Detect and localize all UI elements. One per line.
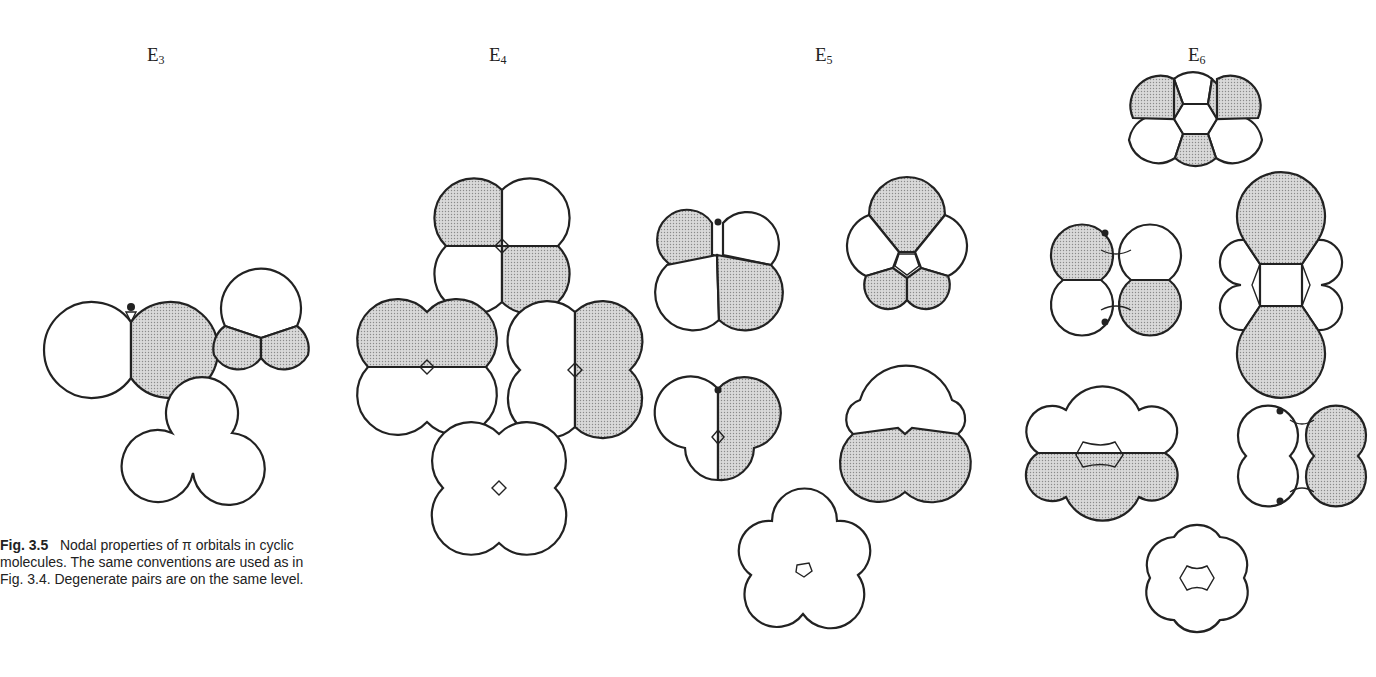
label-main: E <box>489 44 501 65</box>
e4-orbital-1 <box>434 178 569 313</box>
e6-orbital-4 <box>1026 386 1178 520</box>
label-sub: 3 <box>159 53 165 67</box>
node-point-icon <box>715 219 722 226</box>
column-label-e3: E3 <box>147 44 165 68</box>
node-point-icon <box>1277 408 1284 415</box>
e4-orbital-2 <box>357 299 497 435</box>
node-point-icon <box>1102 230 1109 237</box>
e5-orbital-3 <box>655 376 781 480</box>
figure-caption: Fig. 3.5 Nodal properties of π orbitals … <box>0 537 320 588</box>
e5-orbital-4 <box>840 366 971 503</box>
caption-label: Fig. 3.5 <box>0 537 48 553</box>
e6-orbital-5 <box>1238 406 1366 507</box>
label-sub: 5 <box>827 53 833 67</box>
column-label-e5: E5 <box>815 44 833 68</box>
label-sub: 6 <box>1200 53 1206 67</box>
e5-orbital-1 <box>655 210 783 331</box>
label-main: E <box>815 44 827 65</box>
node-point-icon <box>715 387 722 394</box>
e5-orbital-5 <box>739 489 870 629</box>
column-label-e4: E4 <box>489 44 507 68</box>
label-main: E <box>1188 44 1200 65</box>
node-point-icon <box>1277 498 1284 505</box>
e5-orbital-2 <box>847 177 967 309</box>
e3-orbital-3 <box>122 377 265 505</box>
e4-orbital-4 <box>432 422 566 555</box>
node-point-icon <box>127 303 135 311</box>
node-point-icon <box>1102 319 1109 326</box>
e6-orbital-2 <box>1051 225 1181 336</box>
e4-orbital-3 <box>508 301 643 438</box>
label-sub: 4 <box>501 53 507 67</box>
e6-orbital-1 <box>1129 72 1262 166</box>
e6-orbital-6 <box>1146 525 1248 632</box>
label-main: E <box>147 44 159 65</box>
e6-orbital-3 <box>1220 172 1342 398</box>
column-label-e6: E6 <box>1188 44 1206 68</box>
e3-orbital-2 <box>213 269 308 370</box>
